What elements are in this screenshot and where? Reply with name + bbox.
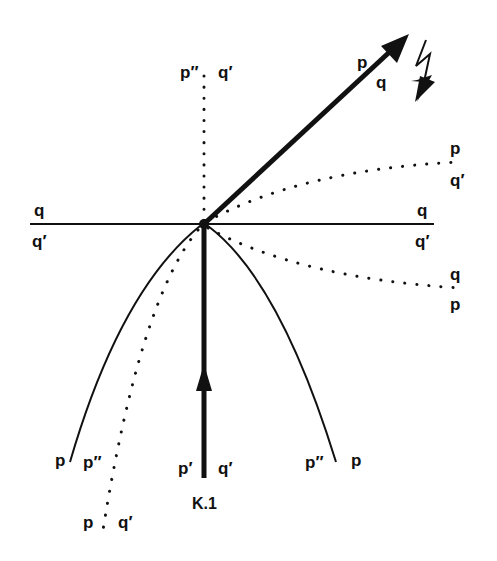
label-right-lower-dotted-lower: p xyxy=(450,296,460,313)
label-reflected-lower: q xyxy=(376,74,386,91)
label-bottom-left-dotted-lower-left: p xyxy=(83,514,93,531)
lightning-bolt-arrow-icon xyxy=(411,40,435,102)
label-bottom-left-dotted-lower-right: q′ xyxy=(118,514,132,531)
label-bottom-left-dotted-upper: p′′ xyxy=(83,454,102,471)
label-right-horizontal-lower: q′ xyxy=(415,233,429,250)
incidence-point xyxy=(199,219,209,229)
right-solid-curve xyxy=(208,226,336,462)
label-left-horizontal-lower: q′ xyxy=(32,233,46,250)
label-right-lower-dotted-upper: q xyxy=(450,266,460,283)
label-right-horizontal-upper: q xyxy=(417,202,427,219)
left-dotted-curve xyxy=(103,230,198,530)
label-bottom-left-solid: p xyxy=(55,452,65,469)
label-bottom-right-solid-left: p′′ xyxy=(305,454,324,471)
label-right-upper-dotted-upper: p xyxy=(450,140,460,157)
reflected-arrow-shaft xyxy=(204,46,396,224)
label-bottom-right-solid-right: p xyxy=(351,452,361,469)
incoming-arrow-head xyxy=(196,364,212,391)
label-incoming-left: p′ xyxy=(178,460,192,477)
label-left-horizontal-upper: q xyxy=(34,202,44,219)
label-top-vertical-left: p′′ xyxy=(180,64,199,81)
label-incoming-right: q′ xyxy=(218,460,232,477)
figure-caption: K.1 xyxy=(192,496,217,512)
label-right-upper-dotted-lower: q′ xyxy=(450,172,464,189)
label-top-vertical-right: q′ xyxy=(218,64,232,81)
left-solid-curve xyxy=(70,226,200,462)
label-reflected-upper: p xyxy=(357,54,367,71)
diagram-canvas xyxy=(0,0,497,561)
